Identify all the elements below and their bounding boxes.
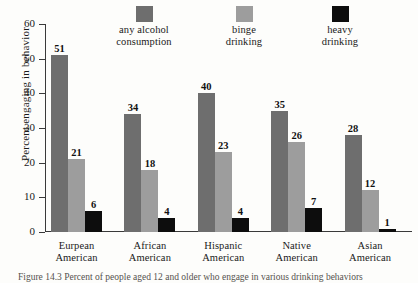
- bar[interactable]: [85, 211, 102, 232]
- bar-group: 40234: [198, 24, 249, 232]
- y-axis-tick-label: 30: [0, 122, 35, 133]
- figure-container: any alcohol consumption binge drinking h…: [0, 0, 418, 283]
- bar-value-label: 6: [79, 199, 109, 210]
- legend-swatch-any-alcohol-consumption: [136, 6, 153, 22]
- legend-swatch-binge-drinking: [236, 6, 253, 22]
- bar-group: 51216: [51, 24, 102, 232]
- bar[interactable]: [271, 111, 288, 232]
- y-axis-tick-label: 20: [0, 157, 35, 168]
- figure-caption: Figure 14.3 Percent of people aged 12 an…: [18, 272, 418, 283]
- bar[interactable]: [51, 55, 68, 232]
- bar[interactable]: [215, 152, 232, 232]
- bar-value-label: 4: [225, 206, 255, 217]
- x-axis-category-label: AsianAmerican: [325, 240, 415, 264]
- bar-value-label: 34: [118, 102, 148, 113]
- bar[interactable]: [232, 218, 249, 232]
- bar[interactable]: [288, 142, 305, 232]
- y-axis-tick-label: 50: [0, 53, 35, 64]
- plot-area: 5121634184402343526728121: [45, 24, 412, 232]
- legend-swatch-heavy-drinking: [332, 6, 349, 22]
- bar-value-label: 18: [135, 158, 165, 169]
- bar-group: 34184: [124, 24, 175, 232]
- bar-value-label: 7: [299, 196, 329, 207]
- y-axis-tick-label: 0: [0, 226, 35, 237]
- bar[interactable]: [379, 229, 396, 232]
- bar-value-label: 4: [152, 206, 182, 217]
- x-axis-category-label-line: Asian: [325, 240, 415, 252]
- bar-value-label: 26: [282, 130, 312, 141]
- bar[interactable]: [124, 114, 141, 232]
- bar-value-label: 1: [372, 217, 402, 228]
- bar[interactable]: [141, 170, 158, 232]
- x-axis-category-label-line: American: [325, 252, 415, 264]
- bar-value-label: 28: [338, 123, 368, 134]
- bar[interactable]: [158, 218, 175, 232]
- y-axis-tick-label: 10: [0, 191, 35, 202]
- bar-value-label: 40: [191, 81, 221, 92]
- bar-value-label: 21: [62, 147, 92, 158]
- bar-group: 28121: [345, 24, 396, 232]
- bar[interactable]: [198, 93, 215, 232]
- bar-value-label: 12: [355, 178, 385, 189]
- bar[interactable]: [68, 159, 85, 232]
- y-axis-tick-label: 40: [0, 87, 35, 98]
- bar[interactable]: [305, 208, 322, 232]
- bar-value-label: 35: [265, 99, 295, 110]
- bar-group: 35267: [271, 24, 322, 232]
- y-axis-tick-label: 60: [0, 18, 35, 29]
- bar-value-label: 51: [45, 43, 75, 54]
- y-axis-tick: [39, 232, 45, 233]
- bar-value-label: 23: [208, 140, 238, 151]
